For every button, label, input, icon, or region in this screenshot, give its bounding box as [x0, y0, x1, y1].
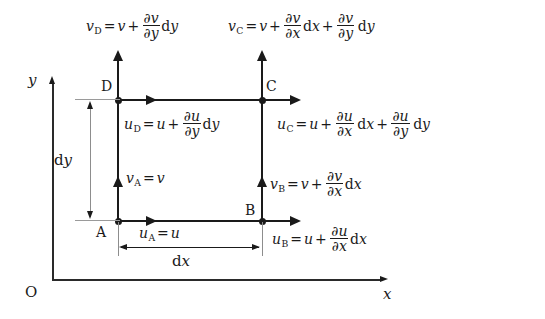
equation-u-d: uD=u+∂u∂ydy	[124, 110, 219, 140]
v-a-arrow-shaft	[117, 184, 119, 221]
dx-dimension-label: dx	[172, 252, 190, 270]
equation-v-c: vC=v+∂v∂xdx+∂v∂ydy	[228, 12, 375, 42]
v-b-equals: =	[287, 176, 299, 192]
u-d-equals: =	[143, 116, 155, 132]
equation-v-d: vD=v+∂v∂ydy	[86, 12, 178, 42]
u-b-plus: +	[315, 231, 327, 247]
v-c-differential-d-2: d	[358, 18, 367, 34]
y-axis-line	[52, 84, 54, 280]
u-c-arrowhead-icon	[290, 95, 301, 105]
equation-u-c: uC=u+∂u∂xdx+∂u∂ydy	[277, 110, 430, 140]
u-a-base: u	[171, 225, 180, 241]
v-d-arrow-shaft	[117, 58, 119, 100]
v-d-arrowhead-icon	[113, 50, 123, 61]
v-c-arrow-shaft	[261, 58, 263, 100]
u-d-arrowhead-icon	[146, 95, 157, 105]
u-d-differential-d: d	[203, 116, 212, 132]
v-d-partial-fraction: ∂v∂y	[143, 11, 160, 41]
v-a-arrowhead-icon	[113, 176, 123, 187]
v-d-plus: +	[127, 18, 139, 34]
origin-label: O	[25, 283, 37, 301]
fluid-element-diagram: vD=v+∂v∂ydy vC=v+∂v∂xdx+∂v∂ydy y x O D C…	[0, 0, 545, 319]
u-a-equals: =	[157, 225, 169, 241]
v-b-arrowhead-icon	[257, 176, 267, 187]
v-c-partial-fraction-y: ∂v∂y	[337, 11, 354, 41]
u-b-partial-fraction: ∂u∂x	[330, 224, 348, 254]
x-axis-arrowhead-icon	[380, 276, 388, 282]
u-c-differential-d-1: d	[357, 116, 366, 132]
u-d-partial-fraction: ∂u∂y	[183, 109, 201, 139]
v-c-differential-var-2: y	[367, 18, 375, 34]
u-b-differential-d: d	[350, 231, 359, 247]
u-c-arrow-shaft	[262, 99, 292, 101]
v-b-differential-var: x	[354, 176, 362, 192]
u-a-lhs: uA	[139, 225, 155, 241]
u-b-equals: =	[290, 231, 302, 247]
u-b-lhs: uB	[272, 231, 288, 247]
v-b-lhs: vB	[270, 176, 285, 192]
dx-var: x	[182, 252, 190, 270]
v-a-lhs: vA	[126, 170, 141, 186]
dy-dimension-label: dy	[54, 151, 72, 169]
u-b-base: u	[304, 231, 313, 247]
element-top-edge	[118, 99, 264, 101]
u-c-base: u	[309, 116, 318, 132]
u-c-partial-fraction-y: ∂u∂y	[391, 109, 409, 139]
dy-var: y	[64, 151, 72, 169]
v-c-lhs: vC	[228, 18, 243, 34]
v-b-plus: +	[311, 176, 323, 192]
v-d-differential-var: y	[170, 18, 178, 34]
v-c-plus-1: +	[269, 18, 281, 34]
u-c-plus-1: +	[320, 116, 332, 132]
x-axis-label: x	[383, 285, 391, 303]
v-c-partial-fraction-x: ∂v∂x	[284, 11, 301, 41]
u-c-differential-var-2: y	[422, 116, 430, 132]
dy-arrowhead-down-icon	[87, 211, 93, 219]
u-c-differential-var-1: x	[366, 116, 374, 132]
equation-v-b: vB=v+∂v∂xdx	[270, 170, 362, 200]
u-c-equals: =	[296, 116, 308, 132]
dx-dimension-shaft	[121, 247, 259, 248]
u-c-plus-2: +	[376, 116, 388, 132]
vertex-label-b: B	[245, 202, 255, 218]
u-a-arrowhead-icon	[146, 216, 157, 226]
dx-d: d	[172, 252, 182, 270]
vertex-label-c: C	[266, 78, 277, 94]
y-axis-arrowhead-icon	[49, 76, 55, 84]
v-c-arrowhead-icon	[257, 50, 267, 61]
u-b-arrow-shaft	[262, 220, 292, 222]
v-c-plus-2: +	[322, 18, 334, 34]
vertex-label-a: A	[96, 224, 106, 240]
u-d-differential-var: y	[212, 116, 220, 132]
dy-arrowhead-up-icon	[87, 101, 93, 109]
dy-extension-line-top	[75, 99, 120, 100]
v-d-lhs: vD	[86, 18, 102, 34]
v-b-arrow-shaft	[261, 184, 263, 221]
dx-extension-line-right	[262, 222, 263, 256]
v-b-base: v	[301, 176, 309, 192]
equation-v-a: vA=v	[126, 170, 165, 188]
v-c-differential-var-1: x	[312, 18, 320, 34]
v-d-base: v	[117, 18, 125, 34]
dy-extension-line-bottom	[75, 220, 120, 221]
equation-u-b: uB=u+∂u∂xdx	[272, 225, 367, 255]
v-c-differential-d-1: d	[303, 18, 312, 34]
dx-extension-line-left	[118, 222, 119, 256]
v-d-equals: =	[104, 18, 116, 34]
u-d-lhs: uD	[124, 116, 141, 132]
vertex-label-d: D	[101, 78, 112, 94]
u-b-differential-var: x	[359, 231, 367, 247]
dx-arrowhead-right-icon	[252, 244, 260, 250]
v-d-differential-d: d	[161, 18, 170, 34]
u-c-lhs: uC	[277, 116, 294, 132]
dy-dimension-shaft	[90, 103, 91, 217]
v-c-base: v	[259, 18, 267, 34]
u-d-base: u	[157, 116, 166, 132]
element-bottom-edge	[118, 220, 264, 222]
u-c-differential-d-2: d	[413, 116, 422, 132]
u-b-arrowhead-icon	[290, 216, 301, 226]
v-b-partial-fraction: ∂v∂x	[326, 169, 343, 199]
dx-arrowhead-left-icon	[119, 244, 127, 250]
v-b-differential-d: d	[345, 176, 354, 192]
x-axis-line	[52, 279, 382, 281]
